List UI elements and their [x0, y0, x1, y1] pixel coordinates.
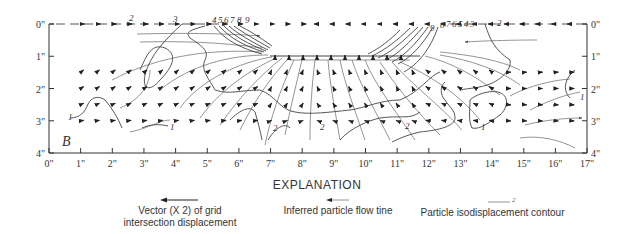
legend-contour-label: Particle isodisplacement contour: [410, 207, 575, 219]
x-tick-label: 1": [76, 158, 85, 169]
svg-text:4: 4: [212, 15, 217, 25]
y-tick-label: 3": [36, 116, 45, 127]
svg-text:6: 6: [224, 15, 229, 25]
x-tick-label: 6": [234, 158, 243, 169]
svg-text:7: 7: [230, 15, 235, 25]
y-tick-label: 2": [591, 84, 600, 95]
panel-label: B: [62, 134, 71, 149]
svg-text:3: 3: [469, 19, 475, 29]
legend-vector-label-1: Vector (X 2) of grid: [120, 205, 240, 217]
y-tick-label: 1": [591, 51, 600, 62]
x-tick-label: 14": [485, 158, 499, 169]
svg-text:5: 5: [458, 19, 463, 29]
y-tick-label: 4": [591, 148, 600, 159]
svg-text:2: 2: [512, 197, 516, 204]
x-tick-label: 10": [358, 158, 372, 169]
y-tick-label: 4": [36, 148, 45, 159]
x-tick-label: 8": [298, 158, 307, 169]
svg-text:8: 8: [440, 20, 445, 30]
x-tick-label: 4": [171, 158, 180, 169]
x-tick-label: 2": [108, 158, 117, 169]
legend-flow-label: Inferred particle flow tine: [268, 205, 408, 217]
particle-flow-lines: [112, 33, 582, 148]
svg-text:4: 4: [464, 19, 469, 29]
displacement-vectors: [81, 24, 575, 121]
legend-item-flow-line: Inferred particle flow tine: [268, 197, 408, 217]
x-tick-label: 0": [44, 158, 53, 169]
x-tick-label: 17": [580, 158, 594, 169]
x-tick-label: 7": [266, 158, 275, 169]
x-tick-label: 5": [203, 158, 212, 169]
legend-item-contour: 2 Particle isodisplacement contour: [410, 197, 575, 219]
svg-text:2: 2: [273, 123, 278, 133]
svg-text:1: 1: [68, 112, 73, 122]
svg-text:5: 5: [218, 15, 223, 25]
y-tick-label: 0": [591, 19, 600, 30]
y-tick-label: 2": [36, 84, 45, 95]
explanation-title: EXPLANATION: [0, 178, 634, 192]
y-tick-label: 0": [36, 19, 45, 30]
legend-item-vector: Vector (X 2) of grid intersection displa…: [120, 197, 240, 229]
svg-text:1: 1: [580, 92, 585, 102]
svg-text:2: 2: [405, 121, 410, 131]
svg-text:1: 1: [170, 122, 175, 132]
y-tick-label: 1": [36, 51, 45, 62]
svg-text:2: 2: [497, 18, 502, 28]
svg-text:2: 2: [320, 122, 325, 132]
x-tick-label: 9": [329, 158, 338, 169]
svg-text:2: 2: [129, 13, 134, 23]
svg-text:3: 3: [172, 14, 178, 24]
svg-text:8: 8: [237, 15, 242, 25]
x-tick-label: 13": [453, 158, 467, 169]
y-tick-label: 3": [591, 116, 600, 127]
x-tick-label: 12": [422, 158, 436, 169]
flow-arrow-icon: [326, 197, 350, 203]
x-tick-label: 16": [548, 158, 562, 169]
legend-vector-label-2: intersection displacement: [120, 217, 240, 229]
svg-text:9: 9: [430, 23, 435, 33]
x-tick-label: 3": [139, 158, 148, 169]
x-tick-label: 11": [390, 158, 404, 169]
x-axis-ticks: 0"1"2"3"4"5"6"7"8"9"10"11"12"13"14"15"16…: [44, 148, 594, 169]
contour-line-icon: 2: [468, 197, 518, 205]
svg-text:7: 7: [446, 19, 451, 29]
svg-text:1: 1: [481, 122, 486, 132]
vector-arrow-icon: [160, 197, 200, 203]
svg-text:6: 6: [452, 19, 457, 29]
x-tick-label: 15": [517, 158, 531, 169]
svg-text:9: 9: [245, 15, 250, 25]
